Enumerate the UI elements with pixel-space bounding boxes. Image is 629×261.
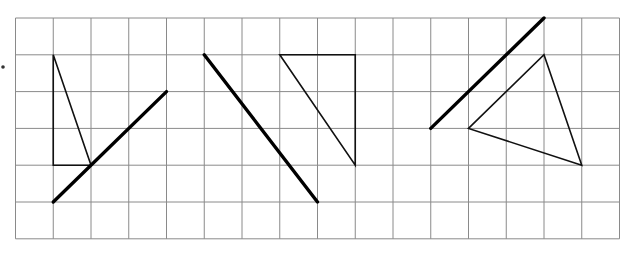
marker-dot [1, 65, 5, 69]
reflection-grid-diagram [0, 0, 629, 261]
